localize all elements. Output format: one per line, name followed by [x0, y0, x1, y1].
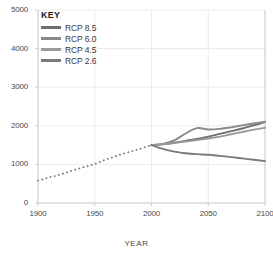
legend-label: RCP 6.0	[65, 34, 96, 44]
rcp-emissions-chart: 010002000300040005000 190019502000205021…	[0, 0, 273, 258]
legend-swatch-icon	[41, 26, 61, 29]
y-tick-label: 3000	[0, 82, 28, 91]
legend-item[interactable]: RCP 2.6	[41, 55, 119, 66]
x-tick-label: 1900	[18, 209, 58, 218]
x-tick-label: 2100	[245, 209, 273, 218]
y-tick-label: 5000	[0, 5, 28, 14]
x-tick-label: 2000	[132, 209, 172, 218]
legend-item[interactable]: RCP 4.5	[41, 44, 119, 55]
y-tick-label: 4000	[0, 44, 28, 53]
y-tick-label: 0	[0, 198, 28, 207]
legend-item[interactable]: RCP 6.0	[41, 33, 119, 44]
legend-rows: RCP 8.5RCP 6.0RCP 4.5RCP 2.6	[41, 22, 119, 66]
x-tick-label: 1950	[75, 209, 115, 218]
x-axis-title: YEAR	[0, 239, 273, 248]
legend-swatch-icon	[41, 48, 61, 51]
legend: KEY RCP 8.5RCP 6.0RCP 4.5RCP 2.6	[41, 10, 119, 66]
legend-swatch-icon	[41, 59, 61, 62]
legend-title: KEY	[41, 10, 119, 20]
legend-label: RCP 2.6	[65, 56, 96, 66]
legend-item[interactable]: RCP 8.5	[41, 22, 119, 33]
y-tick-label: 2000	[0, 121, 28, 130]
legend-label: RCP 4.5	[65, 45, 96, 55]
y-tick-label: 1000	[0, 159, 28, 168]
x-tick-label: 2050	[188, 209, 228, 218]
legend-swatch-icon	[41, 37, 61, 40]
legend-label: RCP 8.5	[65, 23, 96, 33]
